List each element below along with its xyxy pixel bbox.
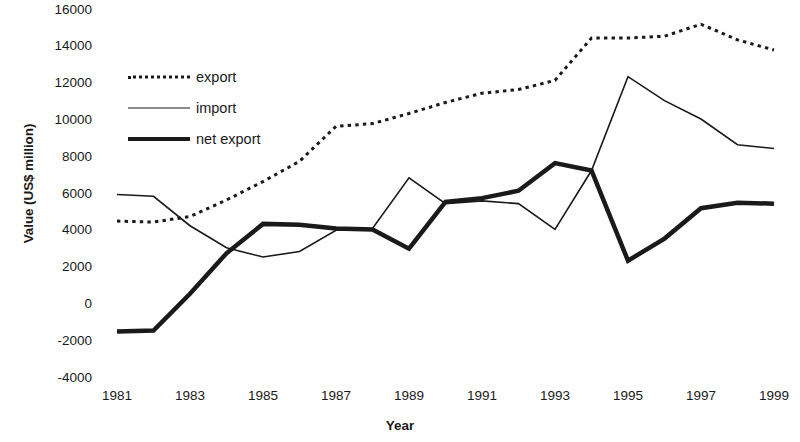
dotted-line-swatch: [128, 71, 190, 83]
legend-label-import: import: [196, 101, 236, 115]
legend-item-import: import: [128, 99, 261, 117]
legend-item-net-export: net export: [128, 130, 261, 148]
chart-legend: export import net export: [128, 68, 261, 148]
x-tick-label: 1983: [175, 388, 205, 403]
thin-line-swatch: [128, 102, 190, 114]
thick-line-swatch: [128, 133, 190, 145]
series-line-net-export: [117, 163, 774, 331]
x-tick-label: 1991: [467, 388, 497, 403]
x-tick-label: 1987: [321, 388, 351, 403]
legend-item-export: export: [128, 68, 261, 86]
legend-label-net-export: net export: [196, 132, 261, 146]
x-tick-label: 1981: [102, 388, 132, 403]
x-tick-label: 1999: [759, 388, 789, 403]
line-chart: 1600014000120001000080006000400020000-20…: [0, 0, 800, 442]
plot-area: [0, 0, 800, 442]
x-tick-label: 1985: [248, 388, 278, 403]
x-axis-title: Year: [0, 418, 800, 433]
x-tick-label: 1993: [540, 388, 570, 403]
x-tick-label: 1995: [613, 388, 643, 403]
x-tick-label: 1997: [686, 388, 716, 403]
legend-label-export: export: [196, 70, 236, 84]
x-tick-label: 1989: [394, 388, 424, 403]
